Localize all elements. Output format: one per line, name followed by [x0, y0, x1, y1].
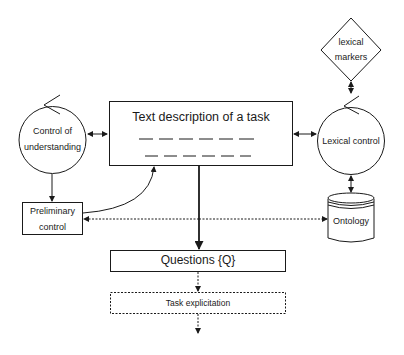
lexical-markers-label: lexical markers: [321, 35, 381, 65]
ontology-label: Ontology: [328, 213, 374, 229]
preliminary-control-line1: Preliminary: [22, 203, 83, 219]
lexical-markers-line2: markers: [321, 50, 381, 65]
questions-label: Questions {Q}: [110, 253, 286, 267]
lexical-control-label: Lexical control: [316, 133, 386, 149]
task-explicitation-label: Task explicitation: [110, 295, 286, 311]
loop-arrow-icon: [44, 95, 60, 114]
preliminary-control-line2: control: [22, 219, 83, 235]
lexical-markers-line1: lexical: [321, 35, 381, 50]
edge-preliminary-textdesc-curve: [83, 167, 154, 213]
loop-arrow-icon: [344, 96, 359, 114]
preliminary-control-label: Preliminary control: [22, 203, 83, 235]
control-of-understanding-line1: Control of: [19, 123, 86, 139]
control-of-understanding-label: Control of understanding: [19, 123, 86, 155]
placeholder-lines: [139, 139, 254, 156]
control-of-understanding-line2: understanding: [19, 139, 86, 155]
text-description-label: Text description of a task: [109, 110, 293, 124]
